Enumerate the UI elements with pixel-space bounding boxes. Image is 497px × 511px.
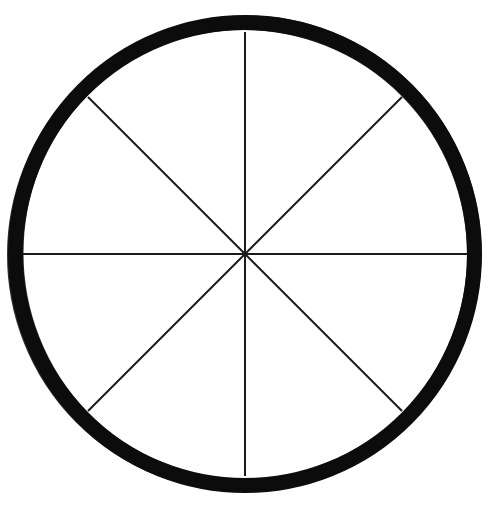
diagram-canvas: Circle divided into eight equal sectors <box>0 0 497 511</box>
spoke-group <box>23 32 467 476</box>
circle-eight-sectors-svg <box>0 0 497 511</box>
